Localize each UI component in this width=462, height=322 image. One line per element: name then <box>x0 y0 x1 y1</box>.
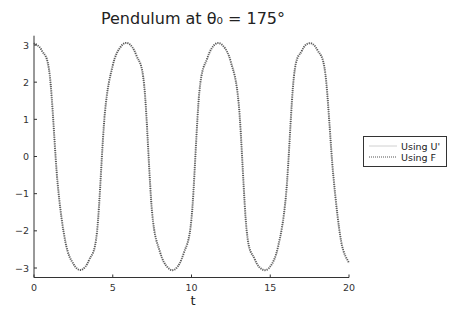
x-tick-label: 5 <box>110 282 116 293</box>
x-tick-label: 0 <box>31 282 37 293</box>
series-line-0 <box>34 43 349 270</box>
plot-area <box>34 43 349 270</box>
x-tick-label: 20 <box>343 282 355 293</box>
chart-title: Pendulum at θ₀ = 175° <box>101 9 285 28</box>
axes: 3210−1−2−305101520 <box>15 36 355 293</box>
y-tick-label: 3 <box>23 40 29 51</box>
x-tick-label: 10 <box>185 282 197 293</box>
y-tick-label: −2 <box>15 225 29 236</box>
y-tick-label: −3 <box>15 263 29 274</box>
legend: Using U' Using F <box>364 137 447 167</box>
y-tick-label: 2 <box>23 77 29 88</box>
series-line-1 <box>34 43 349 270</box>
pendulum-chart: Pendulum at θ₀ = 175° 3210−1−2−305101520… <box>0 0 462 322</box>
legend-label-u: Using U' <box>401 141 440 152</box>
y-tick-label: 0 <box>23 151 29 162</box>
y-tick-label: 1 <box>23 114 29 125</box>
legend-label-f: Using F <box>401 152 436 163</box>
y-tick-label: −1 <box>15 188 29 199</box>
x-axis-label: t <box>190 293 195 308</box>
x-tick-label: 15 <box>264 282 276 293</box>
